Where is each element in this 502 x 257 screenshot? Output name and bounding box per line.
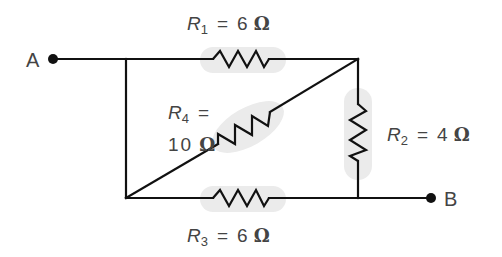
terminal-a-text: A bbox=[26, 49, 39, 71]
r4-value: 10 bbox=[168, 134, 193, 155]
r2-value: 4 bbox=[437, 124, 448, 145]
r4-label: R4= 10Ω bbox=[168, 100, 218, 158]
r4-label-line2: 10Ω bbox=[168, 132, 218, 158]
r1-value: 6 bbox=[237, 13, 248, 34]
r3-value: 6 bbox=[237, 225, 248, 246]
r3-unit: Ω bbox=[254, 225, 270, 246]
r2-unit: Ω bbox=[454, 124, 470, 145]
r2-equals: = bbox=[417, 124, 428, 145]
r1-subscript: 1 bbox=[201, 22, 208, 37]
r4-label-line1: R4= bbox=[168, 100, 218, 132]
r3-equals: = bbox=[217, 225, 228, 246]
terminal-a-node bbox=[48, 54, 58, 64]
r4-unit: Ω bbox=[199, 134, 215, 155]
terminal-b-label: B bbox=[444, 189, 457, 209]
terminal-b-node bbox=[426, 193, 436, 203]
terminal-b-text: B bbox=[444, 188, 457, 210]
r3-label: R3=6Ω bbox=[187, 226, 270, 248]
terminal-a-label: A bbox=[26, 50, 39, 70]
r2-subscript: 2 bbox=[401, 133, 408, 148]
r1-equals: = bbox=[217, 13, 228, 34]
r1-label: R1=6Ω bbox=[187, 14, 270, 36]
r2-label: R2=4Ω bbox=[387, 125, 470, 147]
r2-symbol: R bbox=[387, 124, 401, 145]
r3-subscript: 3 bbox=[201, 234, 208, 249]
r3-symbol: R bbox=[187, 225, 201, 246]
r4-subscript: 4 bbox=[182, 111, 189, 126]
r1-unit: Ω bbox=[254, 13, 270, 34]
r1-symbol: R bbox=[187, 13, 201, 34]
r4-equals: = bbox=[198, 102, 209, 123]
r4-symbol: R bbox=[168, 102, 182, 123]
